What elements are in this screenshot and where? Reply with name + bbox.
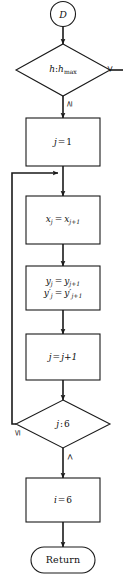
flowchart-canvas: D h:hmax < ≥ j=1 xj=xj+1 yj=yj+1 y′j=y′j…	[0, 0, 123, 584]
process-node-j-equals-1	[26, 118, 100, 166]
process-node-x-assign	[26, 196, 100, 244]
process-node-y-assign	[26, 266, 100, 310]
decision-node-h-hmax	[16, 44, 110, 96]
flowchart-svg	[0, 0, 123, 584]
decision-node-j-6	[16, 400, 110, 448]
start-node-circle	[51, 2, 76, 27]
process-node-i-equals-6	[26, 478, 100, 522]
terminator-node-return	[31, 547, 95, 573]
process-node-j-increment	[26, 334, 100, 380]
